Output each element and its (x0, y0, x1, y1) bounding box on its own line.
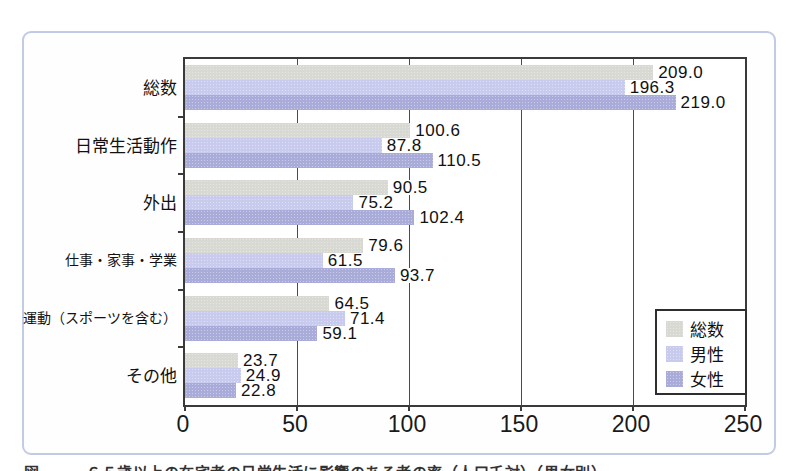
figure-caption-clipped: 図 ６５歳以上の在宅者の日常生活に影響のある者の率（人口千対）（男女別） (24, 461, 784, 471)
x-tick-label: 200 (612, 411, 650, 438)
value-label: 90.5 (391, 180, 430, 195)
value-label: 22.8 (239, 383, 278, 398)
bar-男性 (185, 138, 382, 153)
value-label: 79.6 (366, 238, 405, 253)
y-axis-tick (178, 289, 185, 291)
category-label: 日常生活動作 (75, 131, 177, 156)
bar-男性 (185, 368, 241, 383)
bar-女性 (185, 95, 676, 110)
bar-総数 (185, 65, 653, 80)
grid-line (409, 59, 410, 405)
y-axis-tick (178, 346, 185, 348)
grid-line (521, 59, 522, 405)
bar-女性 (185, 153, 433, 168)
legend-item: 女性 (666, 366, 745, 391)
value-label: 110.5 (436, 153, 484, 168)
bar-女性 (185, 383, 236, 398)
value-label: 87.8 (385, 138, 424, 153)
bar-総数 (185, 123, 410, 138)
value-label: 102.4 (417, 210, 466, 225)
bar-女性 (185, 326, 317, 341)
x-tick-label: 150 (500, 411, 538, 438)
legend-item: 男性 (666, 341, 745, 366)
value-label: 59.1 (320, 326, 359, 341)
bar-男性 (185, 253, 323, 268)
value-label: 75.2 (356, 195, 395, 210)
legend-swatch-女性 (666, 371, 683, 387)
category-label: 総数 (143, 73, 177, 98)
y-axis-tick (178, 116, 185, 118)
bar-男性 (185, 195, 353, 210)
legend-item: 総数 (666, 316, 745, 341)
bar-総数 (185, 180, 388, 195)
x-tick-label: 50 (282, 411, 308, 438)
legend-label: 女性 (690, 366, 724, 391)
legend-box: 総数男性女性 (655, 309, 747, 395)
value-label: 219.0 (679, 95, 728, 110)
x-tick-label: 250 (724, 411, 762, 438)
y-axis-tick (178, 173, 185, 175)
legend-label: 総数 (690, 316, 724, 341)
bar-女性 (185, 210, 414, 225)
category-label: その他 (126, 362, 177, 387)
category-label: 外出 (143, 189, 177, 214)
value-label: 61.5 (326, 253, 365, 268)
y-axis-tick (178, 231, 185, 233)
grid-line (297, 59, 298, 405)
legend-swatch-総数 (666, 321, 683, 337)
bar-男性 (185, 80, 625, 95)
legend-label: 男性 (690, 341, 724, 366)
bar-chart: 209.0196.3219.0100.687.8110.590.575.2102… (0, 0, 799, 471)
category-label: 運動（スポーツを含む） (23, 307, 177, 327)
value-label: 196.3 (628, 80, 677, 95)
category-label: 仕事・家事・学業 (65, 249, 177, 269)
bar-男性 (185, 311, 345, 326)
bar-女性 (185, 268, 395, 283)
bar-総数 (185, 296, 329, 311)
x-tick-label: 0 (177, 411, 190, 438)
legend-swatch-男性 (666, 346, 683, 362)
grid-line (633, 59, 634, 405)
bar-総数 (185, 353, 238, 368)
x-tick-label: 100 (388, 411, 426, 438)
value-label: 93.7 (398, 268, 437, 283)
